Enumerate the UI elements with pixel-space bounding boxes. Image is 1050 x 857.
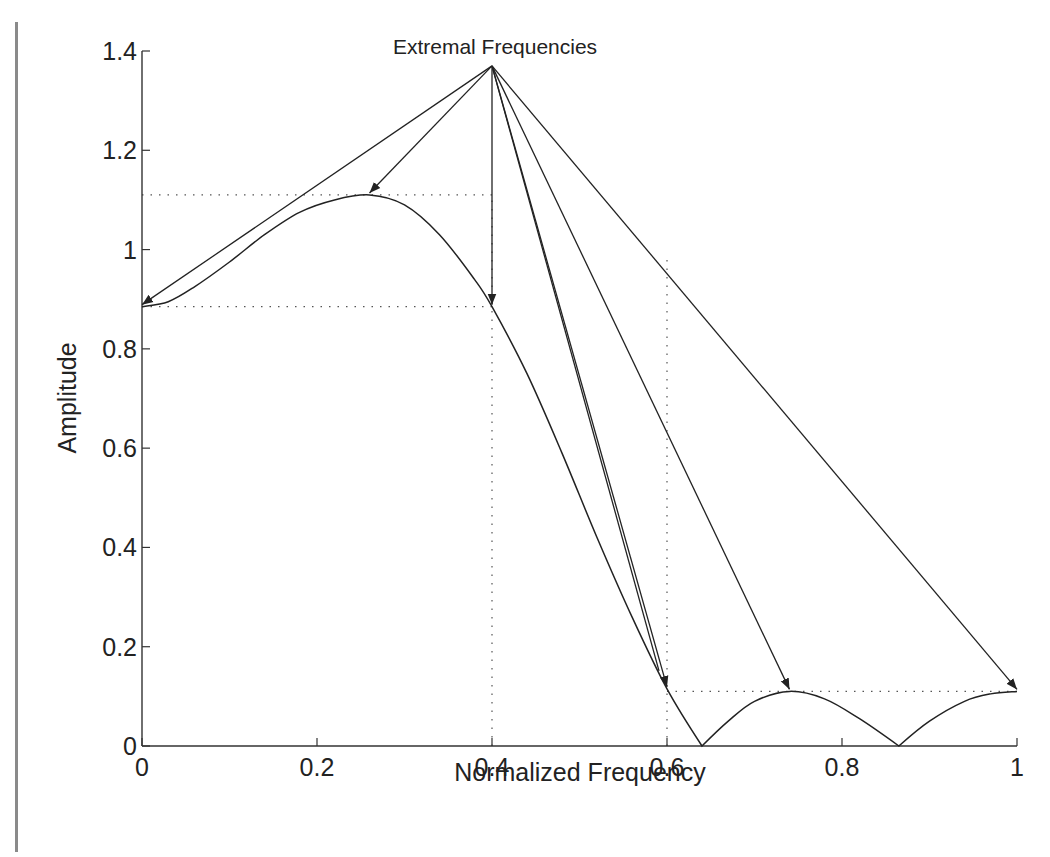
extremal-line (492, 66, 659, 671)
axes: 00.20.40.60.8100.20.40.60.811.21.4 (102, 37, 1024, 781)
x-tick-label: 0.2 (300, 753, 335, 781)
y-tick-label: 0 (123, 732, 137, 760)
annotation-label: Extremal Frequencies (393, 35, 597, 58)
reference-dotted-lines (142, 195, 1017, 746)
y-tick-label: 0.6 (102, 434, 137, 462)
y-tick-label: 0.2 (102, 633, 137, 661)
extremal-arrow (142, 66, 492, 305)
y-axis-label: Amplitude (53, 342, 81, 453)
extremal-arrow (370, 66, 493, 193)
y-tick-label: 0.4 (102, 533, 137, 561)
y-tick-label: 1.2 (102, 136, 137, 164)
y-tick-label: 0.8 (102, 335, 137, 363)
y-tick-label: 1.4 (102, 37, 137, 65)
x-tick-label: 0.8 (825, 753, 860, 781)
amplitude-curve-path (142, 195, 1017, 746)
x-tick-label: 1 (1010, 753, 1024, 781)
x-axis-label: Normalized Frequency (454, 758, 706, 786)
extremal-arrow (492, 66, 1017, 690)
amplitude-curve (142, 195, 1017, 746)
amplitude-chart: 00.20.40.60.8100.20.40.60.811.21.4 Extre… (0, 0, 1050, 857)
x-tick-label: 0 (135, 753, 149, 781)
extremal-arrows (142, 66, 1017, 690)
y-tick-label: 1 (123, 236, 137, 264)
